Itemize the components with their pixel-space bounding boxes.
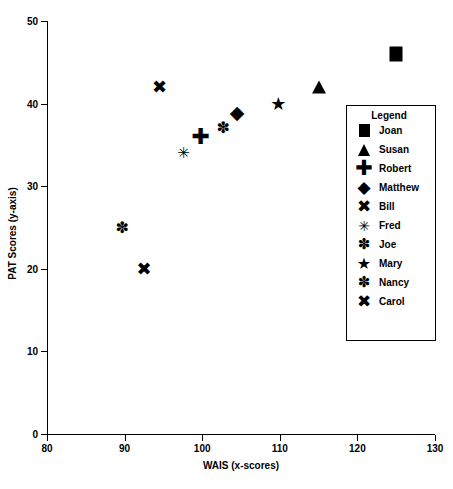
diamond-marker-icon: ◆ — [357, 179, 370, 196]
legend-item-label: Susan — [375, 144, 409, 155]
scatter-chart: 01020304050 8090100110120130 PAT Scores … — [0, 0, 453, 489]
legend-item-robert[interactable]: ✚Robert — [347, 159, 435, 178]
legend-item-fred[interactable]: ✳Fred — [347, 216, 435, 235]
x-tick-mark — [125, 435, 126, 441]
x-tick-mark — [357, 435, 358, 441]
legend-marker: ★ — [353, 256, 375, 272]
burst-marker-icon: ✽ — [358, 275, 371, 290]
legend-item-nancy[interactable]: ✽Nancy — [347, 273, 435, 292]
thinstar-marker-icon: ✳ — [358, 219, 370, 233]
legend-item-label: Joe — [375, 239, 396, 250]
x-tick-mark — [280, 435, 281, 441]
x-marker-icon: ✖ — [152, 78, 167, 96]
legend-item-matthew[interactable]: ◆Matthew — [347, 178, 435, 197]
legend-marker: ✽ — [353, 275, 375, 290]
triangle-marker-icon — [358, 144, 370, 156]
x-tick-label: 100 — [187, 443, 217, 454]
x-marker-icon: ✖ — [357, 293, 371, 310]
legend-item-label: Nancy — [375, 277, 409, 288]
x-tick-label: 80 — [32, 443, 62, 454]
x-tick-label: 110 — [265, 443, 295, 454]
data-point[interactable]: ✖ — [136, 260, 151, 278]
data-point[interactable]: ✽ — [216, 120, 229, 136]
data-point[interactable]: ✳ — [177, 146, 190, 161]
thinstar-marker-icon: ✳ — [177, 146, 190, 161]
legend-marker: ✖ — [353, 293, 375, 310]
legend-rows: JoanSusan✚Robert◆Matthew✖Bill✳Fred✽Joe★M… — [347, 121, 435, 311]
plus-marker-icon: ✚ — [191, 126, 209, 148]
legend-item-label: Carol — [375, 296, 405, 307]
legend: Legend JoanSusan✚Robert◆Matthew✖Bill✳Fre… — [346, 105, 436, 341]
y-axis-line — [47, 21, 48, 435]
square-marker-icon — [390, 47, 403, 62]
y-tick-mark — [41, 21, 47, 22]
x-tick-mark — [435, 435, 436, 441]
y-tick-label: 40 — [8, 98, 38, 109]
legend-item-mary[interactable]: ★Mary — [347, 254, 435, 273]
plus-marker-icon: ✚ — [355, 158, 373, 179]
data-point[interactable]: ✚ — [191, 126, 209, 148]
x-tick-label: 90 — [110, 443, 140, 454]
y-tick-label: 0 — [8, 429, 38, 440]
legend-marker: ◆ — [353, 179, 375, 196]
data-point[interactable]: ✽ — [116, 220, 129, 236]
legend-marker: ✽ — [353, 237, 375, 252]
legend-title: Legend — [347, 106, 435, 121]
legend-item-joe[interactable]: ✽Joe — [347, 235, 435, 254]
legend-marker — [353, 124, 375, 137]
data-point[interactable]: ◆ — [230, 102, 245, 121]
legend-item-label: Joan — [375, 125, 402, 136]
legend-marker: ✚ — [353, 158, 375, 179]
square-marker-icon — [359, 124, 370, 137]
legend-item-label: Robert — [375, 163, 411, 174]
x-tick-label: 130 — [420, 443, 450, 454]
legend-marker — [353, 144, 375, 156]
x-tick-label: 120 — [342, 443, 372, 454]
burst-marker-icon: ✽ — [216, 120, 229, 136]
legend-marker: ✖ — [353, 198, 375, 215]
y-tick-label: 50 — [8, 16, 38, 27]
triangle-marker-icon — [312, 81, 326, 94]
y-tick-mark — [41, 186, 47, 187]
diamond-marker-icon: ◆ — [230, 102, 245, 121]
data-point[interactable]: ✖ — [152, 78, 167, 96]
data-point[interactable] — [390, 47, 403, 62]
data-point[interactable] — [312, 81, 326, 94]
legend-item-label: Fred — [375, 220, 401, 231]
legend-item-carol[interactable]: ✖Carol — [347, 292, 435, 311]
x-tick-mark — [202, 435, 203, 441]
y-tick-mark — [41, 269, 47, 270]
data-point[interactable]: ★ — [270, 95, 286, 113]
legend-item-label: Matthew — [375, 182, 419, 193]
legend-item-joan[interactable]: Joan — [347, 121, 435, 140]
x-axis-line — [47, 434, 435, 435]
star-marker-icon: ★ — [270, 95, 286, 113]
legend-item-bill[interactable]: ✖Bill — [347, 197, 435, 216]
legend-item-label: Mary — [375, 258, 402, 269]
y-tick-mark — [41, 351, 47, 352]
burst-marker-icon: ✽ — [116, 220, 129, 236]
x-axis-title: WAIS (x-scores) — [47, 460, 435, 471]
y-axis-title: PAT Scores (y-axis) — [7, 154, 18, 314]
legend-marker: ✳ — [353, 219, 375, 233]
x-tick-mark — [47, 435, 48, 441]
x-marker-icon: ✖ — [357, 198, 371, 215]
y-tick-label: 10 — [8, 346, 38, 357]
y-tick-mark — [41, 104, 47, 105]
x-marker-icon: ✖ — [136, 260, 151, 278]
star-marker-icon: ★ — [357, 256, 371, 272]
legend-item-label: Bill — [375, 201, 395, 212]
burst-marker-icon: ✽ — [358, 237, 371, 252]
